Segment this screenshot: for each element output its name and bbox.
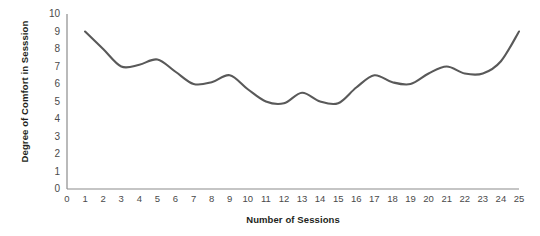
data-series-line [85, 32, 519, 105]
chart-container: Degree of Comfort in Sesssion Number of … [0, 0, 540, 236]
plot-area [0, 0, 540, 236]
